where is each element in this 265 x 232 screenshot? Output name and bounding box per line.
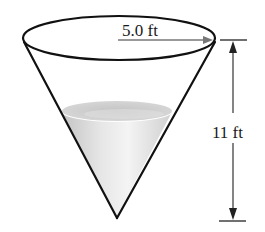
liquid — [62, 101, 172, 216]
liquid-surface-highlight — [84, 109, 164, 119]
cone-top-rim — [23, 16, 215, 60]
height-arrowhead-up-icon — [229, 41, 237, 53]
height-label: 11 ft — [212, 122, 243, 143]
radius-label: 5.0 ft — [122, 22, 158, 39]
liquid-body — [62, 112, 172, 216]
height-arrowhead-down-icon — [229, 208, 237, 220]
